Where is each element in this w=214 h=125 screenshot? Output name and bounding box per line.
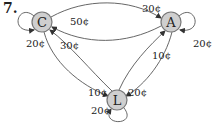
label-loop-l: 20¢ — [91, 105, 110, 116]
label-c-to-a: 30¢ — [142, 3, 161, 14]
label-loop-a: 20¢ — [193, 38, 212, 49]
label-loop-c: 20¢ — [26, 38, 45, 49]
state-diagram: C A L 30¢ 50¢ 30¢ 10¢ 10¢ 20¢ 20¢ 20¢ 20… — [0, 0, 214, 125]
label-l-to-a: 10¢ — [152, 50, 171, 61]
svg-text:A: A — [165, 15, 176, 30]
label-a-to-l: 20¢ — [128, 87, 147, 98]
node-a: A — [161, 12, 181, 32]
label-l-to-c: 30¢ — [60, 40, 79, 51]
edge-a-to-c — [52, 26, 161, 40]
svg-text:C: C — [37, 15, 47, 30]
label-a-to-c: 50¢ — [70, 16, 89, 27]
node-c: C — [32, 12, 52, 32]
svg-text:L: L — [113, 93, 122, 108]
label-c-to-l: 10¢ — [88, 87, 107, 98]
